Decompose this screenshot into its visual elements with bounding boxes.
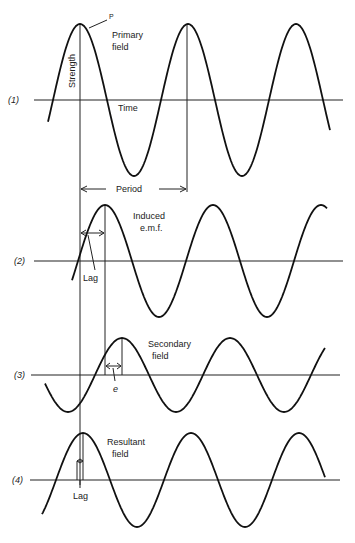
period-label: Period (116, 184, 142, 194)
primary-title-1: Primary (112, 30, 143, 40)
secondary-title-2: field (152, 351, 169, 361)
peak-pointer-line (89, 20, 107, 28)
time-axis-label: Time (118, 103, 138, 113)
induced-title-1: Induced (133, 211, 165, 221)
row-label-3: (3) (14, 370, 25, 380)
resultant-title-2: field (112, 449, 129, 459)
phase-lag-diagram: (1) Primary field Time Strength P Period… (0, 0, 355, 543)
resultant-title-1: Resultant (107, 437, 146, 447)
phase-label-e: e (113, 384, 118, 394)
primary-title-2: field (112, 42, 129, 52)
lag-label-row2: Lag (83, 273, 98, 283)
row-label-4: (4) (12, 475, 23, 485)
secondary-title-1: Secondary (148, 339, 192, 349)
peak-marker-label: P (109, 13, 114, 20)
lag-pointer-row2 (88, 235, 95, 270)
induced-title-2: e.m.f. (140, 223, 163, 233)
row-label-1: (1) (8, 95, 19, 105)
row-label-2: (2) (14, 256, 25, 266)
lag-label-row4: Lag (73, 491, 88, 501)
strength-axis-label: Strength (67, 54, 77, 88)
